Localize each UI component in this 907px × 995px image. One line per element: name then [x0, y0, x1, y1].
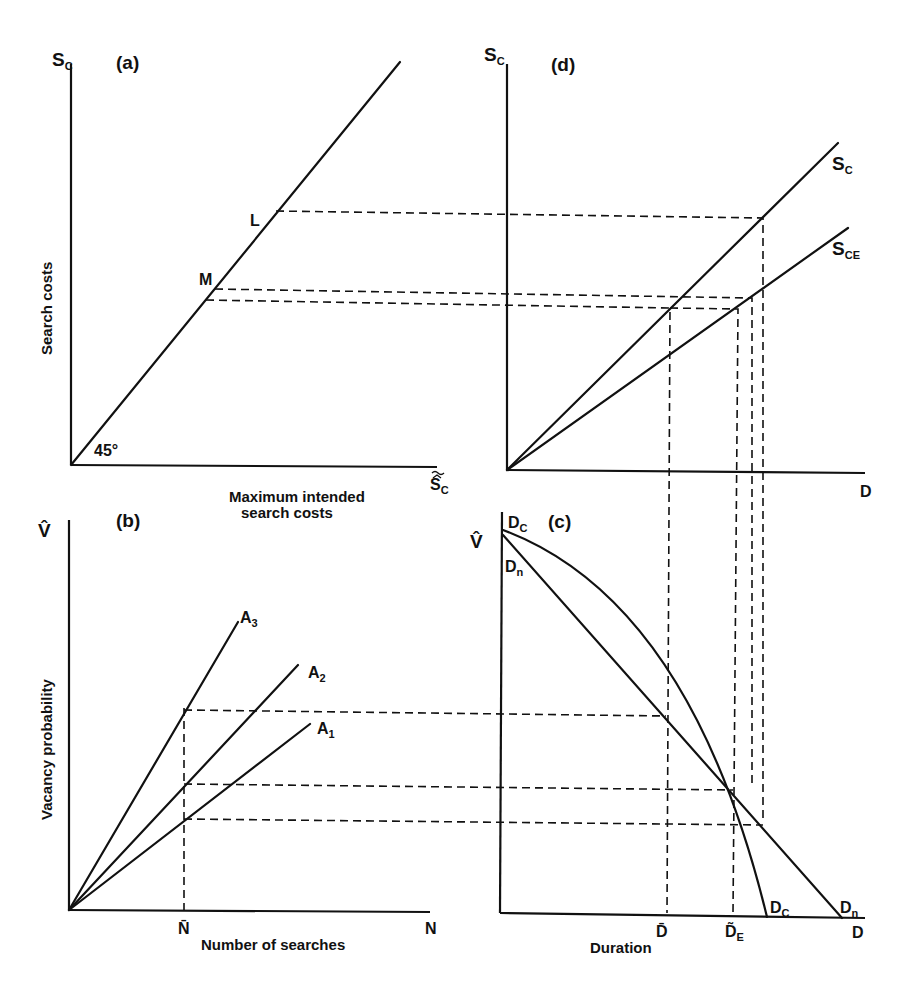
d-tilde-e-tick: D̃E [725, 921, 744, 943]
curve-a1 [69, 724, 310, 910]
panel-a-y-symbol: SC [52, 49, 73, 72]
panel-d-tag: (d) [551, 54, 575, 75]
panel-a-y-title: Search costs [38, 262, 55, 355]
panel-a-x-title-line1: Maximum intended [229, 488, 365, 505]
projection-a3 [184, 710, 666, 716]
d-bar-tick: D̄ [656, 922, 668, 940]
dc-curve [503, 530, 767, 917]
projection-M-lower-de [670, 308, 738, 914]
panel-d-y-symbol: SC [484, 44, 505, 67]
svg-text:SC: SC [430, 476, 449, 496]
panel-a-tag: (a) [116, 52, 139, 73]
panel-c-x-title: Duration [590, 939, 652, 956]
panel-c-tag: (c) [548, 511, 571, 532]
curve-a3-label: A3 [240, 609, 258, 629]
angle-45-label: 45° [94, 442, 118, 459]
panel-b-y-symbol: V̂ [38, 520, 51, 541]
panel-c-y-symbol: V̂ [470, 531, 483, 552]
panel-d-x-symbol: D [860, 483, 872, 500]
panel-a-x-symbol: SC [430, 472, 449, 497]
panel-b: V̂ (b) A3 A2 A1 Vacancy probability N̄ N… [38, 510, 437, 953]
projection-a2 [184, 784, 733, 790]
point-M-label: M [199, 271, 212, 288]
panel-a-x-title-line2: search costs [241, 504, 333, 521]
dc-top-label: DC [508, 514, 528, 534]
curve-a3 [69, 622, 238, 910]
panel-c-y-axis [500, 512, 502, 913]
panel-c-x-axis [500, 913, 865, 918]
curve-a1-label: A1 [317, 720, 335, 740]
dn-top-label: Dn [505, 558, 524, 578]
panel-d: SC (d) SC SCE D [484, 44, 872, 500]
curve-a2-label: A2 [308, 664, 326, 684]
dn-end-label: Dn [840, 899, 859, 919]
panel-a: SC (a) L M 45° Search costs Maximum inte… [38, 49, 449, 521]
panel-b-x-axis [69, 910, 430, 912]
panel-b-x-title: Number of searches [201, 936, 345, 953]
point-L-label: L [250, 212, 260, 229]
panel-d-x-axis [507, 470, 865, 473]
dn-line [503, 535, 842, 918]
panel-a-x-axis [71, 465, 437, 467]
panel-b-x-symbol: N [425, 920, 437, 937]
projection-a1 [184, 819, 763, 825]
sce-line-label: SCE [832, 238, 860, 261]
panel-b-tag: (b) [116, 510, 140, 531]
panel-c-x-symbol: D [852, 924, 864, 941]
four-quadrant-diagram: SC (a) L M 45° Search costs Maximum inte… [0, 0, 907, 995]
panel-b-y-title: Vacancy probability [38, 678, 55, 820]
sce-line [507, 228, 848, 470]
sc-line [507, 143, 838, 470]
projection-lines [184, 211, 763, 914]
n-bar-tick: N̄ [178, 919, 190, 937]
sc-line-label: SC [832, 153, 853, 176]
panel-a-45-degree-line [71, 62, 400, 465]
